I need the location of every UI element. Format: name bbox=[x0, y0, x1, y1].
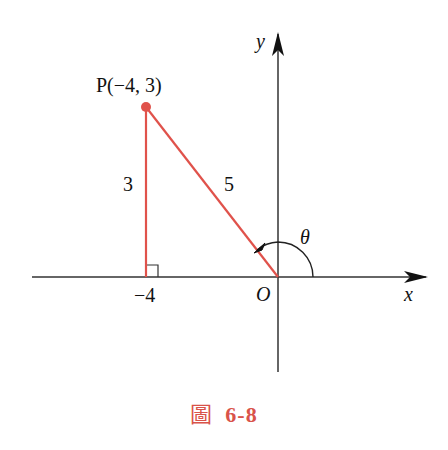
y-axis-label: y bbox=[254, 30, 265, 53]
angle-label: θ bbox=[300, 226, 310, 248]
caption-prefix: 圖 bbox=[190, 402, 213, 427]
figure-caption: 圖6-8 bbox=[0, 396, 448, 428]
right-angle-icon bbox=[146, 265, 158, 277]
foot-label: −4 bbox=[134, 284, 155, 306]
point-p bbox=[141, 102, 151, 112]
caption-number: 6-8 bbox=[225, 402, 257, 427]
point-label: P(−4, 3) bbox=[96, 74, 162, 97]
vertical-side-label: 3 bbox=[123, 173, 133, 195]
coordinate-diagram: P(−4, 3) y x O 3 5 −4 θ bbox=[0, 0, 448, 450]
origin-label: O bbox=[256, 283, 270, 305]
hypotenuse-label: 5 bbox=[224, 173, 234, 195]
x-axis-label: x bbox=[403, 283, 413, 305]
